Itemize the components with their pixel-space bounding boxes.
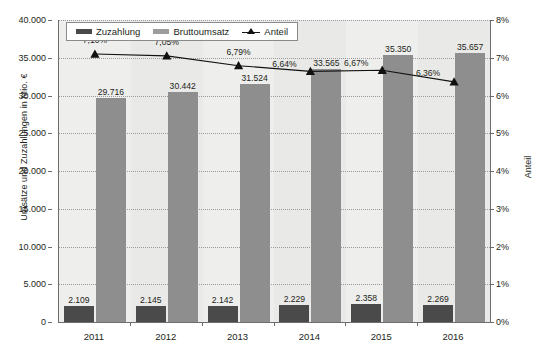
legend-item-anteil: Anteil — [242, 26, 288, 37]
x-axis-tickmark — [274, 322, 275, 326]
x-axis-tickmark — [130, 322, 131, 326]
x-axis-tick-label: 2014 — [299, 331, 320, 342]
bar-label-zuzahlung: 2.229 — [284, 294, 306, 304]
y-axis-left-tick-label: 25.000 — [0, 128, 52, 138]
bar-label-bruttoumsatz: 35.657 — [457, 42, 483, 52]
bar-label-zuzahlung: 2.109 — [68, 295, 90, 305]
y-axis-right-tick-label: 5% — [490, 128, 530, 138]
legend-label: Bruttoumsatz — [173, 26, 229, 37]
y-axis-left-tick-label: 0 — [0, 317, 52, 327]
chart-container: Umsätze und Zuzahlungen in Mio. € Anteil… — [0, 0, 544, 353]
y-axis-left-tick-label: 10.000 — [0, 242, 52, 252]
y-axis-left-tick-label: 40.000 — [0, 15, 52, 25]
y-axis-title-left: Umsätze und Zuzahlungen in Mio. € — [19, 47, 29, 247]
anteil-point-label: 6,79% — [226, 47, 250, 57]
legend-label: Anteil — [264, 26, 288, 37]
legend-swatch-triangle-icon — [242, 28, 260, 36]
y-axis-left-tick-label: 20.000 — [0, 166, 52, 176]
legend-item-bruttoumsatz: Bruttoumsatz — [153, 26, 229, 37]
bar-label-bruttoumsatz: 31.524 — [241, 73, 267, 83]
x-axis-tickmark — [202, 322, 203, 326]
x-axis-tick-label: 2015 — [371, 331, 392, 342]
legend-item-zuzahlung: Zuzahlung — [76, 26, 140, 37]
legend-label: Zuzahlung — [96, 26, 140, 37]
y-axis-right-tick-label: 7% — [490, 53, 530, 63]
bar-label-zuzahlung: 2.142 — [212, 295, 234, 305]
chart-legend: Zuzahlung Bruttoumsatz Anteil — [66, 22, 298, 41]
bar-label-zuzahlung: 2.358 — [355, 293, 377, 303]
bar-label-bruttoumsatz: 35.350 — [385, 44, 411, 54]
y-axis-right-tick-label: 1% — [490, 279, 530, 289]
y-axis-right-tick-label: 0% — [490, 317, 530, 327]
bar-label-bruttoumsatz: 29.716 — [98, 87, 124, 97]
anteil-point-label: 6,36% — [416, 68, 440, 78]
x-axis-tickmark — [417, 322, 418, 326]
anteil-point-label: 6,67% — [344, 58, 368, 68]
bar-label-bruttoumsatz: 30.442 — [170, 81, 196, 91]
bar-label-zuzahlung: 2.269 — [427, 294, 449, 304]
x-axis-tick-label: 2012 — [155, 331, 176, 342]
x-axis-tick-label: 2016 — [443, 331, 464, 342]
x-axis-tickmark — [345, 322, 346, 326]
bar-label-zuzahlung: 2.145 — [140, 295, 162, 305]
anteil-point-label: 6,64% — [272, 59, 296, 69]
y-axis-left-tick-label: 35.000 — [0, 53, 52, 63]
bar-label-bruttoumsatz: 33.565 — [313, 58, 339, 68]
y-axis-left-tick-label: 30.000 — [0, 91, 52, 101]
y-axis-right-tick-label: 2% — [490, 242, 530, 252]
plot-area: 7,10%7,05%6,79%6,64%6,67%6,36% 2.10929.7… — [58, 20, 491, 323]
x-axis-tick-label: 2013 — [227, 331, 248, 342]
legend-swatch-bar-icon — [153, 29, 169, 34]
y-axis-left-tick-label: 5.000 — [0, 279, 52, 289]
x-axis-tick-label: 2011 — [84, 331, 104, 342]
legend-swatch-bar-icon — [76, 29, 92, 34]
y-axis-right-tick-label: 8% — [490, 15, 530, 25]
y-axis-right-tick-label: 6% — [490, 91, 530, 101]
y-axis-right-tick-label: 4% — [490, 166, 530, 176]
y-axis-right-tick-label: 3% — [490, 204, 530, 214]
y-axis-left-tick-label: 15.000 — [0, 204, 52, 214]
